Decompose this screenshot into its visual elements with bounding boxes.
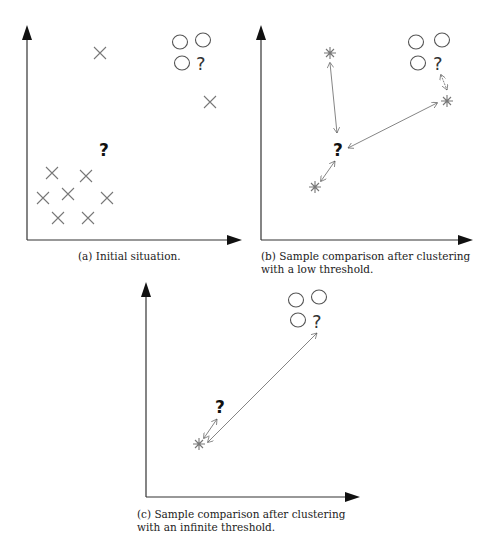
x-axis-arrow-icon [345, 492, 360, 502]
query-bold-icon: ? [333, 140, 343, 160]
query-bold-icon: ? [215, 397, 225, 417]
x-axis-arrow-icon [458, 235, 473, 245]
caption-c-line2: with an infinite threshold. [137, 521, 275, 534]
star-markers [193, 438, 205, 450]
figure-canvas: ? ? ? ? [0, 0, 500, 545]
panel-b: ? ? [256, 25, 473, 245]
panel-a: ? ? [22, 25, 242, 245]
caption-b-line2: with a low threshold. [261, 263, 373, 276]
query-bold-icon: ? [99, 140, 109, 160]
query-light-icon: ? [196, 53, 206, 74]
y-axis-arrow-icon [141, 282, 151, 297]
y-axis-arrow-icon [256, 25, 266, 40]
distance-arrows [321, 63, 447, 181]
circle-markers [409, 33, 450, 70]
x-axis-arrow-icon [227, 235, 242, 245]
panel-c: ? ? [141, 282, 360, 502]
caption-a: (a) Initial situation. [78, 250, 181, 263]
y-axis-arrow-icon [22, 25, 32, 40]
query-light-icon: ? [433, 53, 443, 74]
cross-markers [37, 47, 216, 224]
caption-b-line1: (b) Sample comparison after clustering [261, 250, 489, 263]
query-light-icon: ? [312, 311, 322, 332]
distance-arrows [204, 333, 317, 442]
caption-c-line1: (c) Sample comparison after clustering [137, 508, 365, 521]
